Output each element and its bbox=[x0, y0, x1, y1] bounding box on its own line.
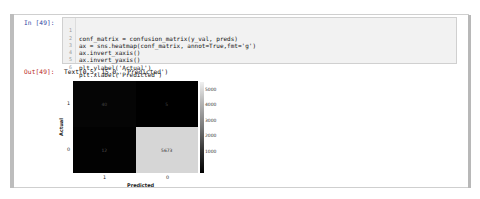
colorbar-tick: 2000 bbox=[205, 133, 216, 138]
colorbar-tick: 4000 bbox=[205, 102, 216, 107]
confusion-matrix-heatmap: 40 5 12 5673 bbox=[73, 81, 198, 173]
colorbar-tick: 1000 bbox=[205, 149, 216, 154]
y-axis-label: Actual bbox=[58, 118, 64, 136]
cell-shadow bbox=[468, 15, 471, 188]
code-editor[interactable]: 1 conf_matrix = confusion_matrix(y_val, … bbox=[62, 17, 457, 64]
cell-value: 5 bbox=[165, 102, 168, 107]
code-text: conf_matrix = confusion_matrix(y_val, pr… bbox=[79, 35, 238, 42]
x-axis-label: Predicted bbox=[127, 182, 154, 188]
cell-value: 40 bbox=[101, 102, 107, 107]
code-text: ax.invert_yaxis() bbox=[79, 56, 140, 63]
cell-selection-bar bbox=[10, 14, 14, 188]
cell-value: 12 bbox=[101, 148, 107, 153]
heatmap-cell: 40 bbox=[73, 81, 136, 127]
cell-value: 5673 bbox=[161, 148, 172, 153]
heatmap-cell: 12 bbox=[73, 127, 136, 173]
colorbar-tick: 3000 bbox=[205, 118, 216, 123]
heatmap-cell: 5673 bbox=[136, 127, 199, 173]
output-prompt: Out[49]: bbox=[24, 68, 55, 75]
y-tick-label: 1 bbox=[67, 101, 70, 106]
code-line[interactable]: 6 plt.xlabel('Predicted') bbox=[63, 57, 77, 64]
colorbar-tick: 5000 bbox=[205, 87, 216, 92]
colorbar bbox=[200, 82, 204, 173]
code-line[interactable]: 4 ax.invert_yaxis() bbox=[63, 42, 77, 49]
input-prompt: In [49]: bbox=[24, 19, 55, 26]
code-line[interactable]: 5 plt.ylabel('Actual') bbox=[63, 49, 77, 56]
code-text: ax.invert_xaxis() bbox=[79, 49, 140, 56]
code-text: ax = sns.heatmap(conf_matrix, annot=True… bbox=[79, 42, 256, 49]
output-text: Text(0.5, 15.0, 'Predicted') bbox=[64, 68, 168, 75]
x-tick-label: 1 bbox=[103, 175, 106, 180]
y-tick-label: 0 bbox=[67, 147, 70, 152]
code-line[interactable]: 1 conf_matrix = confusion_matrix(y_val, … bbox=[63, 20, 77, 27]
code-line[interactable]: 3 ax.invert_xaxis() bbox=[63, 35, 77, 42]
x-tick-label: 0 bbox=[166, 175, 169, 180]
code-line[interactable]: 2 ax = sns.heatmap(conf_matrix, annot=Tr… bbox=[63, 27, 77, 34]
heatmap-cell: 5 bbox=[136, 81, 199, 127]
